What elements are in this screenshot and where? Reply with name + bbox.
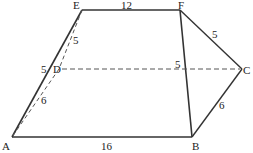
length-AB: 16 bbox=[101, 140, 113, 152]
length-EF: 12 bbox=[121, 0, 132, 11]
length-ED: 5 bbox=[73, 34, 79, 46]
point-label-B: B bbox=[192, 140, 199, 152]
length-AD-left: 5 bbox=[41, 63, 47, 75]
length-CB: 6 bbox=[219, 99, 225, 111]
edge-EA bbox=[12, 10, 82, 137]
point-label-D: D bbox=[53, 63, 61, 75]
dashed-DA bbox=[12, 69, 59, 137]
point-label-C: C bbox=[243, 64, 250, 76]
point-label-E: E bbox=[73, 0, 80, 11]
diagram-canvas: E F C B A D 12 16 5 6 5 6 5 5 bbox=[0, 0, 253, 153]
edge-FB bbox=[180, 10, 192, 137]
length-DA: 6 bbox=[41, 94, 47, 106]
edge-CB bbox=[192, 69, 242, 137]
edge-FC bbox=[180, 10, 242, 69]
length-FC: 5 bbox=[212, 28, 218, 40]
geometry-diagram: E F C B A D 12 16 5 6 5 6 5 5 bbox=[0, 0, 253, 153]
dashed-ED bbox=[59, 10, 82, 69]
length-F-mid: 5 bbox=[175, 58, 181, 70]
point-label-A: A bbox=[2, 140, 10, 152]
point-label-F: F bbox=[178, 0, 184, 11]
